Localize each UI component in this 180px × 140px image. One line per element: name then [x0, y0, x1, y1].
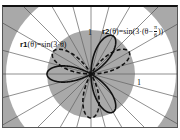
radial-tick-right: 1 — [137, 79, 141, 87]
polar-plot: r1(θ)=sin(3·θ) r2(θ)=sin(3·(θ− π 6 )) 1 … — [2, 5, 178, 128]
radial-tick-top: 1 — [88, 29, 92, 37]
fraction-pi-over-6: π 6 — [154, 24, 157, 39]
r1-label: r1(θ)=sin(3·θ) — [20, 41, 66, 49]
r2-label: r2(θ)=sin(3·(θ− π 6 )) — [102, 24, 163, 39]
